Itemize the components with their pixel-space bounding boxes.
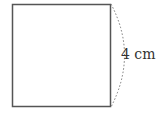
square-diagram: [0, 0, 161, 126]
side-length-label: 4 cm: [121, 46, 155, 62]
square: [13, 5, 111, 107]
